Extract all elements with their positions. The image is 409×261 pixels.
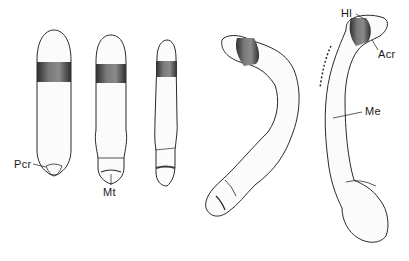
specimen-4 <box>206 36 299 217</box>
specimen-3-band <box>156 61 177 77</box>
specimen-illustration <box>0 0 409 261</box>
specimen-2-band <box>96 64 126 83</box>
specimen-3 <box>155 40 178 186</box>
specimen-1 <box>33 30 71 176</box>
label-me: Me <box>365 106 381 117</box>
specimen-2 <box>95 35 126 185</box>
specimen-1-body <box>37 30 71 175</box>
specimen-2-body <box>95 35 126 184</box>
label-pcr: Pcr <box>14 159 31 170</box>
label-hl: Hl <box>341 8 352 19</box>
label-mt: Mt <box>103 187 116 198</box>
specimen-1-band <box>37 62 71 82</box>
label-acr: Acr <box>378 49 395 60</box>
